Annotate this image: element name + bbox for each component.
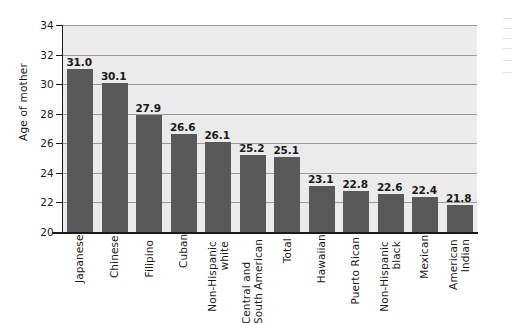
y-axis-tick-mark (56, 25, 63, 26)
y-axis-tick-mark (56, 232, 63, 233)
bar (343, 191, 369, 232)
bar (274, 157, 300, 232)
y-axis-tick-mark (56, 114, 63, 115)
x-axis-tick-label-text: AmericanIndian (448, 240, 471, 291)
bar (205, 142, 231, 232)
bar-value-label: 25.1 (273, 144, 299, 156)
bar (171, 134, 197, 232)
bar (378, 194, 404, 232)
bar-value-label: 21.8 (446, 192, 472, 204)
bar-value-label: 23.1 (308, 173, 334, 185)
bar (240, 155, 266, 232)
bar (102, 83, 128, 232)
y-axis-tick-label: 24 (20, 167, 54, 179)
y-axis-tick-label: 22 (20, 196, 54, 208)
bar-value-label: 27.9 (135, 102, 161, 114)
bar-value-label: 22.6 (377, 181, 403, 193)
bar (67, 69, 93, 232)
y-axis-tick-mark (56, 173, 63, 174)
y-axis-tick-label: 34 (20, 19, 54, 31)
gridline (63, 55, 477, 56)
bar-value-label: 22.4 (411, 184, 437, 196)
page-edge-artifact (501, 14, 515, 80)
bar (412, 197, 438, 232)
bar-value-label: 26.6 (170, 121, 196, 133)
y-axis-tick-mark (56, 202, 63, 203)
y-axis-title: Age of mother (17, 37, 29, 167)
bar-value-label: 25.2 (239, 142, 265, 154)
y-axis-tick-mark (56, 143, 63, 144)
chart-page: 31.030.127.926.626.125.225.123.122.822.6… (0, 0, 515, 323)
bar (136, 115, 162, 232)
bar (447, 205, 473, 232)
y-axis-tick-mark (56, 55, 63, 56)
bar (309, 186, 335, 232)
bar-value-label: 30.1 (101, 70, 127, 82)
bar-value-label: 22.8 (342, 178, 368, 190)
x-axis-tick-label: AmericanIndian (418, 237, 502, 321)
bar-value-label: 31.0 (66, 56, 92, 68)
bar-value-label: 26.1 (204, 129, 230, 141)
gridline (63, 25, 477, 26)
x-axis-line (52, 232, 478, 234)
y-axis-tick-mark (56, 84, 63, 85)
